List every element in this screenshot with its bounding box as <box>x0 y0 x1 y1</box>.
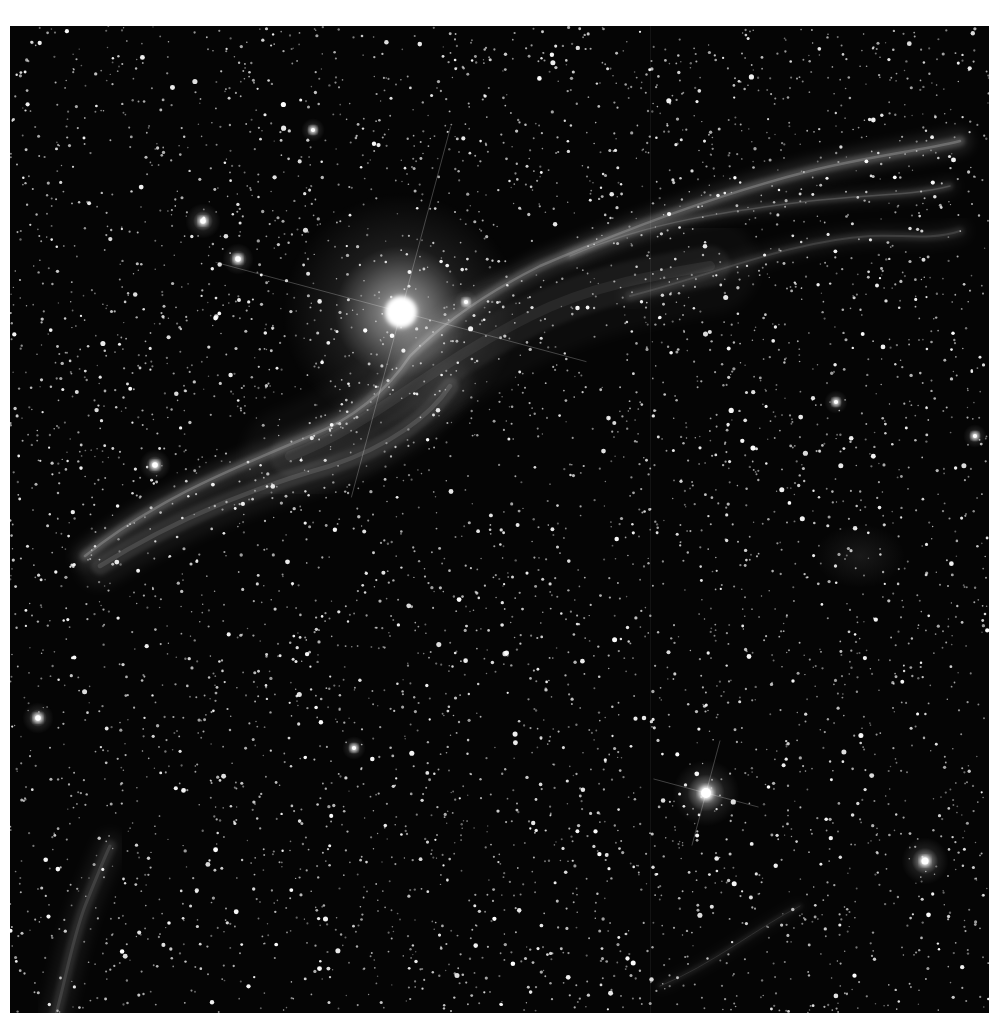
lower-right-bright-star <box>652 739 761 848</box>
right-star-2 <box>963 424 987 448</box>
upper-mid-star <box>454 290 478 314</box>
top-star <box>301 118 325 142</box>
right-faint-nebula <box>815 524 905 588</box>
mid-star <box>342 736 366 760</box>
star-field <box>10 26 989 1013</box>
faint-nebula-patches <box>815 524 905 588</box>
left-edge-star <box>22 702 54 734</box>
upper-left-star-2 <box>222 243 254 275</box>
mosaic-seam <box>650 26 651 1013</box>
upper-left-star-1 <box>185 203 221 239</box>
bottom-right-star <box>901 837 949 885</box>
right-mid-star <box>824 390 848 414</box>
left-star <box>139 449 171 481</box>
astronomical-photograph <box>10 26 989 1013</box>
